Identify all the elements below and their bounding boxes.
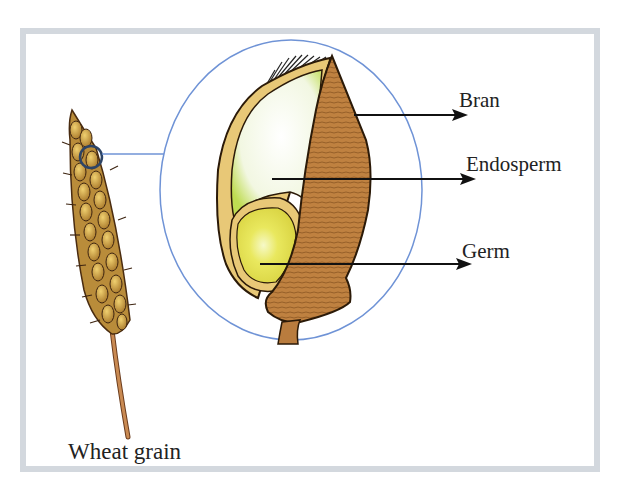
- label-bran: Bran: [459, 90, 500, 111]
- label-wheat-grain: Wheat grain: [68, 440, 181, 463]
- label-endosperm: Endosperm: [466, 154, 562, 175]
- wheat-stalk-icon: [62, 110, 136, 437]
- label-germ: Germ: [462, 241, 510, 262]
- wheat-grain-illustration: [0, 0, 626, 497]
